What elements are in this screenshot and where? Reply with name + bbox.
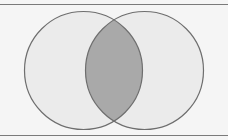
venn-diagram [0, 0, 228, 140]
venn-svg [0, 0, 228, 140]
